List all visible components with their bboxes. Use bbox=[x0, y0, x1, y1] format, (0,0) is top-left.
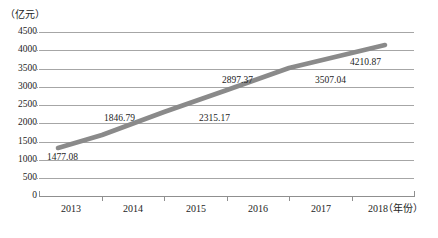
data-label-2017: 3507.04 bbox=[315, 75, 346, 85]
data-label-2014: 1846.79 bbox=[104, 113, 135, 123]
data-label-2015: 2315.17 bbox=[199, 113, 230, 123]
data-label-2016: 2897.37 bbox=[222, 75, 253, 85]
data-label-2013: 1477.08 bbox=[47, 152, 78, 162]
data-label-2018: 4210.87 bbox=[350, 57, 381, 67]
line-chart: （亿元） 4500 4000 3500 3000 2500 2000 1500 bbox=[0, 0, 438, 238]
series-line bbox=[58, 45, 385, 148]
